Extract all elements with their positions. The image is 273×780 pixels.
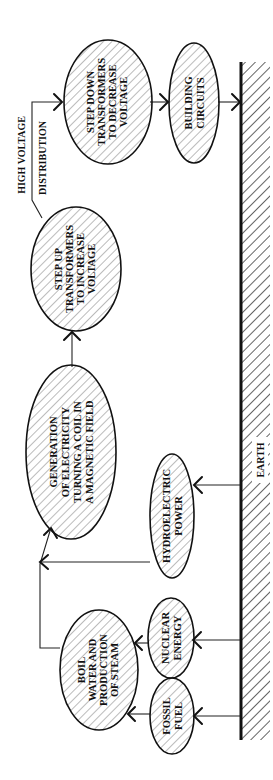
node-text-line: TO INCREASE [75, 233, 86, 305]
node-text-line: OF STEAM [109, 643, 120, 697]
node-text-line: FOSSIL [161, 697, 172, 734]
node-building-circuits: BUILDING CIRCUITS [169, 43, 219, 163]
earth-ground: EARTH [241, 62, 270, 740]
node-step-down-transformers: STEP DOWN TRANSFORMERS TO DECREASE VOLTA… [64, 40, 152, 164]
node-generation-of-electricity: GENERATION OF ELECTRICITY TURNING A COIL… [26, 365, 116, 539]
node-step-up-transformers: STEP UP TRANSFORMERS TO INCREASE VOLTAGE [31, 207, 121, 331]
node-nuclear-energy: NUCLEAR ENERGY [148, 598, 194, 678]
node-text-line: POWER [173, 496, 184, 536]
node-boil-water-steam: BOIL WATER AND PRODUCTION OF STEAM [60, 610, 138, 730]
node-text-line: TURNING A COIL IN [72, 401, 83, 503]
node-text-line: FUEL [173, 702, 184, 730]
earth-hatching [242, 62, 270, 740]
node-text-line: BUILDING [183, 76, 194, 129]
edge-boil-generation [40, 531, 60, 648]
node-text-line: HYDROELECTRIC [161, 469, 172, 563]
node-text-line: NUCLEAR [160, 612, 171, 664]
node-text-line: WATER AND [87, 638, 98, 701]
node-text-line: STEP DOWN [85, 71, 96, 134]
high-voltage-label: HIGH VOLTAGE [16, 116, 27, 194]
node-text-line: TRANSFORMERS [96, 58, 107, 146]
node-hydroelectric-power: HYDROELECTRIC POWER [150, 454, 194, 578]
node-text-line: VOLTAGE [86, 244, 97, 295]
node-text-line: CIRCUITS [195, 77, 206, 129]
node-text-line: TO DECREASE [107, 65, 118, 140]
node-fossil-fuel: FOSSIL FUEL [150, 678, 194, 754]
node-text-line: VOLTAGE [118, 77, 129, 128]
node-text-line: PRODUCTION [98, 634, 109, 706]
node-text-line: BOIL [76, 657, 87, 683]
node-text-line: A MAGNETIC FIELD [84, 400, 95, 504]
node-text-line: ENERGY [172, 615, 183, 660]
node-text-line: GENERATION [48, 416, 59, 487]
electricity-flow-diagram: EARTH HIGH VOLTA [0, 0, 273, 780]
distribution-label: DISTRIBUTION [37, 120, 48, 195]
node-text-line: TRANSFORMERS [64, 225, 75, 313]
node-text-line: STEP UP [53, 247, 64, 290]
earth-label: EARTH [255, 442, 266, 477]
node-text-line: OF ELECTRICITY [60, 406, 71, 497]
